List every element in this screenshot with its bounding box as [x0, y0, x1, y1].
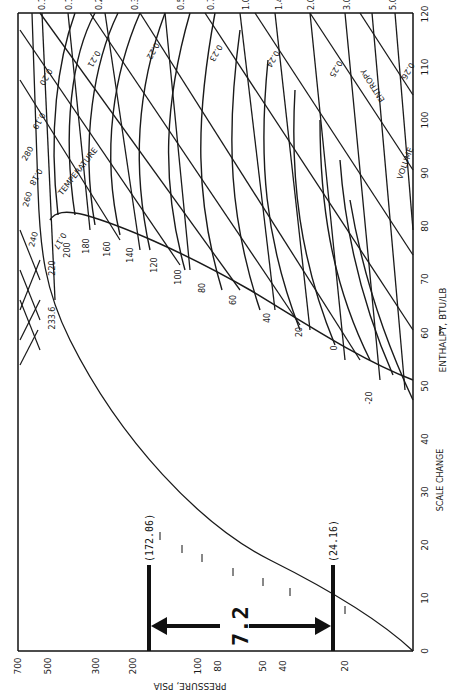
entropy-label: 0.25	[327, 59, 344, 79]
volume-label: 0.300	[131, 0, 140, 10]
volume-label: 5.0	[389, 0, 398, 10]
entropy-lines	[20, 13, 413, 360]
volume-label: 0.500	[177, 0, 186, 10]
enthalpy-tick: 10	[420, 592, 430, 604]
volume-label: 0.140	[65, 0, 74, 10]
pressure-axis-title: PRESSURE, PSIA	[153, 681, 227, 691]
enthalpy-tick: 110	[420, 58, 430, 75]
temperature-label: 160	[103, 241, 112, 256]
pressure-tick: 500	[43, 657, 53, 674]
entropy-label: 0.22	[144, 41, 161, 61]
pressure-axis: 700 500 300 200 100 80 50 40 20 PRESSURE…	[13, 657, 350, 691]
enthalpy-tick: 30	[420, 486, 430, 498]
enthalpy-tick: 90	[420, 167, 430, 179]
scale-change-annotation: 7.2 (172.06) (24.16)	[144, 514, 339, 651]
temperature-label: 180	[82, 238, 91, 253]
temperature-lines	[54, 13, 413, 400]
temperature-label: 260	[21, 191, 34, 208]
enthalpy-tick: 60	[420, 327, 430, 339]
volume-label: 0.700	[207, 0, 216, 10]
entropy-label: 0.18	[27, 167, 44, 187]
enthalpy-tick: 40	[420, 433, 430, 445]
temperature-label: 60	[229, 295, 238, 305]
volume-label: 0.100	[38, 0, 47, 10]
arrow-left-icon	[151, 617, 167, 635]
temperature-label: 40	[263, 313, 272, 323]
enthalpy-tick: 50	[420, 380, 430, 392]
temperature-label: 280	[20, 145, 35, 163]
critical-point-label: 233.6	[48, 307, 57, 330]
entropy-label: 0.20	[37, 67, 54, 87]
pressure-tick: 100	[193, 657, 203, 674]
scale-change-label: SCALE CHANGE	[436, 449, 445, 512]
entropy-line-title: ENTROPY	[359, 67, 386, 104]
temperature-label: 20	[295, 327, 304, 337]
arrow-right-icon	[315, 617, 331, 635]
temperature-line-title: TEMPERATURE	[56, 146, 100, 198]
pressure-tick: 200	[128, 657, 138, 674]
upper-pressure-label: (172.06)	[144, 514, 155, 562]
temperature-label: 200	[63, 242, 72, 257]
enthalpy-tick: 20	[420, 539, 430, 551]
lower-pressure-label: (24.16)	[328, 520, 339, 562]
saturation-curve	[32, 13, 413, 651]
pressure-tick: 50	[258, 660, 268, 672]
volume-label: 2.0	[307, 0, 316, 10]
temperature-label: 0	[330, 345, 339, 350]
enthalpy-tick: 80	[420, 220, 430, 232]
temperature-label: 240	[27, 231, 40, 248]
volume-label: 1.4	[275, 0, 284, 10]
pressure-tick: 20	[340, 660, 350, 672]
high-pressure-hatch	[20, 230, 40, 365]
pressure-tick: 40	[278, 660, 288, 672]
pressure-enthalpy-chart: 0 10 20 30 40 50 60 70 80 90 100 110 120…	[0, 0, 463, 694]
temperature-labels: -20 0 20 40 60 80 100 120 140 160 180 20…	[20, 145, 374, 405]
enthalpy-tick: 120	[420, 5, 430, 22]
volume-label: 3.0	[343, 0, 352, 10]
enthalpy-tick: 100	[420, 111, 430, 128]
temperature-label: 80	[198, 283, 207, 293]
temperature-label: 140	[126, 247, 135, 262]
upper-pressure-bar	[147, 565, 151, 651]
temperature-label: 120	[150, 257, 159, 272]
temperature-label: -20	[365, 391, 374, 404]
enthalpy-tick: 0	[420, 648, 430, 654]
temperature-label: 100	[174, 269, 183, 284]
enthalpy-axis: 0 10 20 30 40 50 60 70 80 90 100 110 120…	[420, 5, 448, 654]
volume-label: 1.000	[242, 0, 251, 10]
enthalpy-tick: 70	[420, 273, 430, 285]
lower-pressure-bar	[331, 565, 335, 651]
volume-label: 0.200	[95, 0, 104, 10]
entropy-label: 0.19	[30, 111, 47, 131]
temperature-label: 220	[48, 260, 57, 275]
pressure-tick: 700	[13, 657, 23, 674]
pressure-tick: 300	[91, 657, 101, 674]
arrow-distance-label: 7.2	[228, 606, 253, 646]
pressure-tick: 80	[213, 660, 223, 672]
